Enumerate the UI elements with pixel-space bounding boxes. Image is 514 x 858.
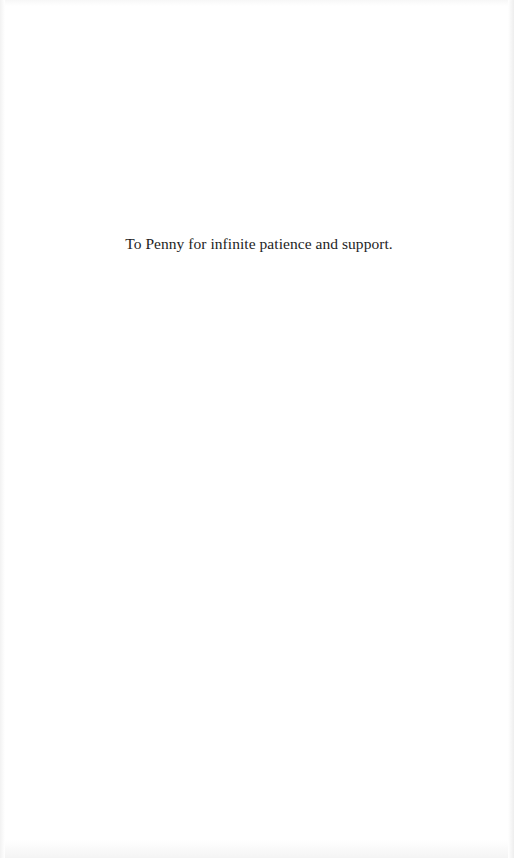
book-page: To Penny for infinite patience and suppo… bbox=[0, 0, 514, 858]
dedication-text: To Penny for infinite patience and suppo… bbox=[125, 235, 393, 253]
dedication-line: To Penny for infinite patience and suppo… bbox=[0, 235, 514, 253]
